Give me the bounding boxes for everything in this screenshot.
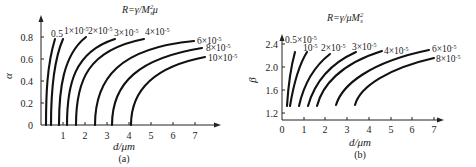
svg-text:0.2: 0.2	[21, 98, 34, 109]
svg-text:3: 3	[345, 124, 350, 135]
curve-8e-5	[355, 58, 434, 105]
curve-4e-5	[76, 39, 144, 125]
y-ticks: 0 0.2 0.4 0.6 0.8	[21, 32, 45, 131]
svg-text:5: 5	[149, 130, 154, 141]
curve-4e-5	[317, 51, 382, 106]
svg-text:3×10-5: 3×10-5	[352, 42, 377, 52]
svg-text:4: 4	[367, 124, 372, 135]
svg-text:6: 6	[171, 130, 176, 141]
svg-text:10-5: 10-5	[303, 43, 318, 53]
svg-text:0: 0	[28, 120, 33, 131]
curve-8e-5	[112, 48, 202, 125]
y-axis-label: α	[2, 73, 14, 79]
panel-caption: (a)	[118, 153, 129, 165]
svg-text:2×10-5: 2×10-5	[88, 26, 113, 36]
svg-text:7: 7	[193, 130, 198, 141]
x-axis-label: d/μm	[349, 136, 371, 148]
svg-text:0.5: 0.5	[51, 29, 63, 39]
y-axis-arrow-icon	[280, 34, 285, 41]
curve-labels: 0.5×10-5 10-5 2×10-5 3×10-5 4×10-5 6×10-…	[285, 35, 461, 64]
panel-caption: (b)	[354, 149, 366, 161]
svg-text:0: 0	[280, 124, 285, 135]
svg-text:1.2: 1.2	[266, 108, 279, 119]
svg-text:0.4: 0.4	[21, 76, 34, 87]
svg-text:8×10-5: 8×10-5	[206, 43, 231, 53]
svg-text:4×10-5: 4×10-5	[384, 46, 409, 56]
svg-text:10×10-5: 10×10-5	[208, 53, 237, 63]
curve-2e-5	[299, 54, 330, 106]
svg-text:1: 1	[302, 124, 307, 135]
svg-text:4×10-5: 4×10-5	[145, 27, 170, 37]
svg-text:8×10-5: 8×10-5	[436, 54, 461, 64]
svg-text:1.6: 1.6	[266, 85, 279, 96]
svg-text:6: 6	[410, 124, 415, 135]
svg-text:5: 5	[389, 124, 394, 135]
y-axis-label: β	[246, 77, 258, 84]
svg-text:3×10-5: 3×10-5	[114, 28, 139, 38]
svg-text:7: 7	[432, 124, 437, 135]
panel-b: R=γ/μM2s 1.2 1.6 2.0 2.4 β 0 1	[246, 11, 461, 161]
svg-text:1×10-5: 1×10-5	[64, 26, 89, 36]
svg-text:3: 3	[105, 130, 110, 141]
svg-text:6×10-5: 6×10-5	[432, 44, 457, 54]
y-axis-arrow-icon	[39, 15, 44, 22]
svg-text:0.8: 0.8	[21, 32, 34, 43]
svg-text:2.4: 2.4	[266, 39, 279, 50]
x-axis-label: d/μm	[113, 140, 135, 152]
x-axis-arrow-icon	[437, 118, 444, 123]
curves	[287, 50, 434, 106]
figure: R=γ/M2sμ 0 0.2 0.4 0.6 0.8 α 1	[0, 0, 476, 167]
panel-a: R=γ/M2sμ 0 0.2 0.4 0.6 0.8 α 1	[2, 3, 237, 165]
svg-text:2×10-5: 2×10-5	[321, 43, 346, 53]
svg-text:1: 1	[61, 130, 66, 141]
curves	[46, 37, 205, 125]
panel-a-title: R=γ/M2sμ	[121, 3, 158, 16]
svg-text:2.0: 2.0	[266, 62, 279, 73]
panel-b-title: R=γ/μM2s	[326, 11, 364, 24]
svg-text:2: 2	[323, 124, 328, 135]
curve-1e-5	[51, 39, 63, 125]
svg-text:0.6: 0.6	[21, 54, 34, 65]
x-axis-arrow-icon	[214, 123, 221, 128]
svg-text:2: 2	[83, 130, 88, 141]
